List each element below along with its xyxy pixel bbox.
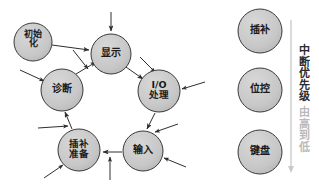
node-circle-interp[interactable] <box>238 9 282 53</box>
node-circle-pos[interactable] <box>238 68 282 112</box>
priority-axis-group <box>288 20 294 173</box>
node-circle-keybd[interactable] <box>238 130 282 174</box>
node-circle-diag[interactable] <box>41 69 83 111</box>
interrupt-arrow-input-bottomright <box>164 158 186 167</box>
priority-axis-arrowhead <box>288 166 294 173</box>
interrupt-arrow-io-upperleft <box>140 57 155 72</box>
flow-edge-init-display <box>52 45 89 50</box>
priority-axis-label-sub: 由高到低 <box>298 106 309 152</box>
interrupt-arrow-diag-left <box>20 70 44 81</box>
flow-edge-io-input <box>147 113 155 129</box>
interrupt-arrow-input-upperright <box>155 124 178 132</box>
interrupt-arrow-display-upperleft <box>73 50 88 69</box>
interrupt-arrow-prep-left <box>38 126 68 128</box>
node-circle-init[interactable] <box>14 23 52 61</box>
interrupt-arrow-io-right <box>182 82 205 89</box>
node-circle-input[interactable] <box>123 131 163 171</box>
priority-axis-label-main: 中断优先级 <box>298 44 309 102</box>
diagram-canvas: 初始 化 显示 I/O 处理 输入 插补 准备 诊断 插补 位控 键盘 中断优先… <box>0 0 319 188</box>
flow-edge-display-io <box>126 67 143 79</box>
node-circle-prep[interactable] <box>58 129 100 171</box>
node-circle-io[interactable] <box>138 70 180 112</box>
priority-node-group <box>238 9 282 174</box>
interrupt-arrow-prep-bottomleft <box>44 165 63 178</box>
cycle-node-group <box>14 23 180 171</box>
diagram-svg <box>0 0 319 188</box>
node-circle-display[interactable] <box>91 34 131 74</box>
